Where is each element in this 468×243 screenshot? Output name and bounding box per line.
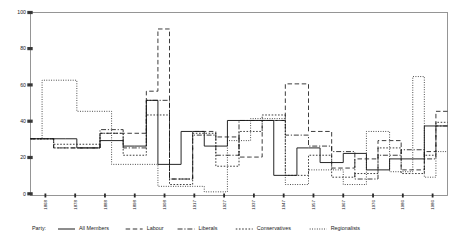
x-tick xyxy=(313,194,315,198)
x-tick-label: 1986 xyxy=(430,199,435,209)
legend-label-regionalists: Regionalists xyxy=(331,225,361,231)
x-tick-label: 1927 xyxy=(222,199,227,209)
legend-label-all-members: All Members xyxy=(79,225,109,231)
x-tick xyxy=(74,194,76,198)
y-tick-label-100: 100 xyxy=(17,9,26,15)
legend-label-labour: Labour xyxy=(147,225,164,231)
x-tick xyxy=(283,194,285,198)
y-tick-label-40: 40 xyxy=(20,118,26,124)
step-line-chart: 100 80 60 40 20 0 18681 xyxy=(0,0,468,243)
y-tick-label-20: 20 xyxy=(20,154,26,160)
x-tick xyxy=(253,194,255,198)
x-tick xyxy=(223,194,225,198)
y-tick-label-80: 80 xyxy=(20,45,26,51)
x-tick-label: 1967 xyxy=(341,199,346,209)
x-tick-label: 1976 xyxy=(371,199,376,209)
x-tick xyxy=(193,194,195,198)
x-tick-label: 1888 xyxy=(103,199,108,209)
x-tick xyxy=(372,194,374,198)
legend-label-liberals: Liberals xyxy=(199,225,218,231)
x-tick-label: 1908 xyxy=(162,199,167,209)
x-tick xyxy=(44,194,46,198)
x-tick-label: 1868 xyxy=(43,199,48,209)
x-tick xyxy=(342,194,344,198)
x-tick xyxy=(402,194,404,198)
x-tick-label: 1878 xyxy=(73,199,78,209)
chart-container: 100 80 60 40 20 0 18681 xyxy=(0,0,468,243)
x-tick xyxy=(134,194,136,198)
x-tick-label: 1917 xyxy=(192,199,197,209)
x-tick xyxy=(164,194,166,198)
x-tick-label: 1986 xyxy=(400,199,405,209)
y-tick-label-60: 60 xyxy=(20,82,26,88)
x-tick xyxy=(432,194,434,198)
chart-background xyxy=(0,0,468,243)
legend-title: Party: xyxy=(32,225,46,231)
x-tick xyxy=(104,194,106,198)
x-tick-label: 1947 xyxy=(281,199,286,209)
x-tick-label: 1957 xyxy=(311,199,316,209)
y-tick-label-0: 0 xyxy=(23,191,26,197)
x-tick-label: 1937 xyxy=(251,199,256,209)
legend-label-conservatives: Conservatives xyxy=(257,225,291,231)
x-tick-label: 1898 xyxy=(132,199,137,209)
